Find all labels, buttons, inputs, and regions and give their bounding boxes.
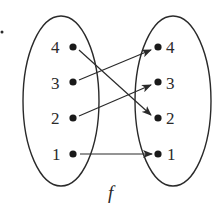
domain-point-2 [69,114,76,121]
arrow-2-to-3 [79,85,151,116]
codomain-point-2 [154,114,161,121]
domain-label-1: 1 [52,145,61,164]
codomain-label-3: 3 [166,74,175,93]
domain-label-4: 4 [51,38,60,57]
mapping-arrows [79,50,152,154]
domain-set-ellipse [23,16,99,186]
domain-label-3: 3 [51,74,60,93]
codomain-point-3 [154,78,161,85]
codomain-point-1 [154,150,161,157]
domain-label-2: 2 [51,109,60,128]
stray-dot [1,31,4,34]
function-mapping-diagram: 4 3 2 1 4 3 2 1 f [0,0,215,224]
function-name-label: f [108,182,116,203]
domain-point-1 [69,150,76,157]
arrow-3-to-4 [79,50,151,80]
codomain-label-2: 2 [166,109,175,128]
codomain-elements: 4 3 2 1 [154,38,175,164]
codomain-label-1: 1 [167,145,176,164]
domain-point-3 [69,78,76,85]
codomain-point-4 [154,43,161,50]
domain-point-4 [69,43,76,50]
codomain-label-4: 4 [166,38,175,57]
domain-elements: 4 3 2 1 [51,38,77,164]
